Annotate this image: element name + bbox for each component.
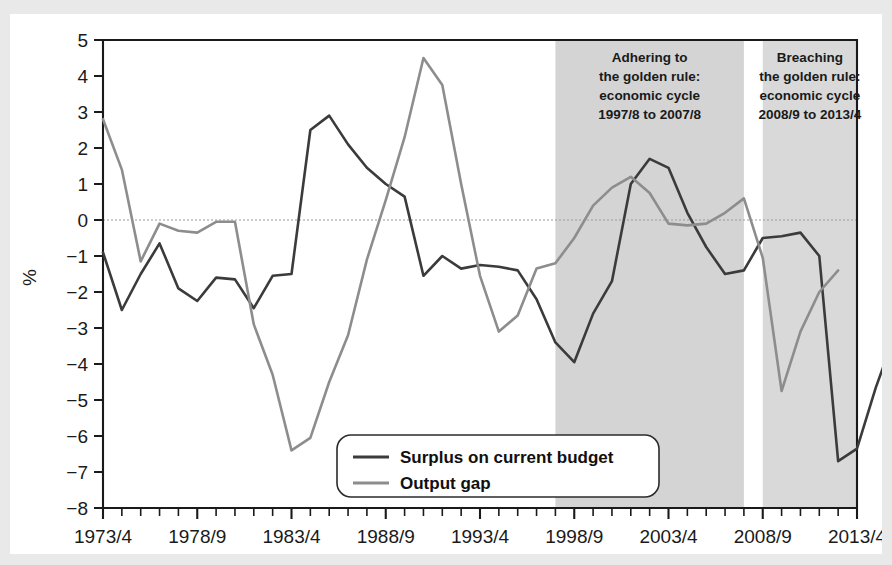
- annotation-line: Breaching: [777, 50, 843, 65]
- y-tick-label: 0: [77, 210, 88, 231]
- annotation-line: Adhering to: [612, 50, 688, 65]
- x-axis-ticks: [103, 508, 857, 519]
- line-chart: 543210−1−2−3−4−5−6−7−8 1973/41978/91983/…: [10, 14, 882, 554]
- legend[interactable]: Surplus on current budgetOutput gap: [337, 435, 659, 497]
- x-tick-label: 1973/4: [74, 526, 133, 547]
- x-axis-tick-labels: 1973/41978/91983/41988/91993/41998/92003…: [74, 526, 882, 547]
- x-tick-label: 2003/4: [639, 526, 698, 547]
- chart-stage: 543210−1−2−3−4−5−6−7−8 1973/41978/91983/…: [10, 14, 882, 554]
- y-axis-ticks: [94, 40, 103, 508]
- x-tick-label: 1978/9: [168, 526, 226, 547]
- annotation-line: 2008/9 to 2013/4: [758, 107, 861, 122]
- y-tick-label: −8: [66, 498, 88, 519]
- y-tick-label: −2: [66, 282, 88, 303]
- x-tick-label: 1993/4: [451, 526, 510, 547]
- y-axis-tick-labels: 543210−1−2−3−4−5−6−7−8: [66, 30, 88, 519]
- y-axis-title-text: %: [19, 269, 40, 286]
- annotation-line: 1997/8 to 2007/8: [598, 107, 701, 122]
- annotation-line: the golden rule:: [599, 69, 700, 84]
- annotation-line: the golden rule:: [759, 69, 860, 84]
- y-tick-label: −7: [66, 462, 88, 483]
- y-tick-label: −6: [66, 426, 88, 447]
- y-tick-label: 2: [77, 138, 88, 159]
- annotation-line: economic cycle: [760, 88, 861, 103]
- y-tick-label: 3: [77, 102, 88, 123]
- y-tick-label: 1: [77, 174, 88, 195]
- x-tick-label: 1998/9: [545, 526, 603, 547]
- x-tick-label: 2013/4: [828, 526, 882, 547]
- y-tick-label: −5: [66, 390, 88, 411]
- x-tick-label: 2008/9: [734, 526, 792, 547]
- y-tick-label: 5: [77, 30, 88, 51]
- y-tick-label: −3: [66, 318, 88, 339]
- legend-label: Output gap: [400, 474, 491, 493]
- legend-label: Surplus on current budget: [400, 448, 614, 467]
- x-tick-label: 1988/9: [357, 526, 415, 547]
- y-tick-label: 4: [77, 66, 88, 87]
- x-tick-label: 1983/4: [262, 526, 321, 547]
- y-axis-title: %: [19, 269, 40, 286]
- y-tick-label: −1: [66, 246, 88, 267]
- y-tick-label: −4: [66, 354, 88, 375]
- annotation-line: economic cycle: [599, 88, 700, 103]
- figure-panel: 543210−1−2−3−4−5−6−7−8 1973/41978/91983/…: [10, 14, 882, 554]
